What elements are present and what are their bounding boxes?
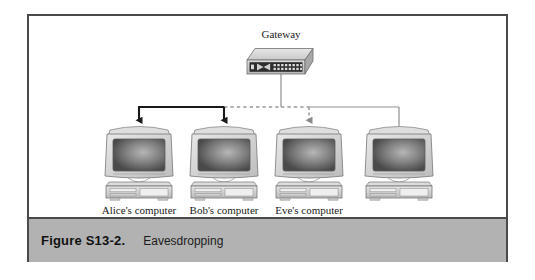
gateway-label: Gateway: [225, 28, 337, 40]
figure-caption-title: Eavesdropping: [143, 234, 223, 248]
router-switch-icon: [245, 47, 317, 77]
desktop-computer-icon: [186, 120, 262, 202]
computer-label-eve: Eve's computer: [249, 204, 369, 216]
computer-bob[interactable]: [186, 120, 262, 202]
computer-node4[interactable]: [361, 120, 437, 202]
desktop-computer-icon: [271, 120, 347, 202]
figure-s13-2: Gateway: [0, 0, 535, 280]
computer-alice[interactable]: [101, 120, 177, 202]
desktop-computer-icon: [361, 120, 437, 202]
figure-frame: Gateway: [27, 14, 508, 262]
gateway-device[interactable]: [245, 47, 317, 77]
computer-eve[interactable]: [271, 120, 347, 202]
figure-caption-bar: Figure S13-2. Eavesdropping: [29, 217, 506, 262]
figure-caption-number: Figure S13-2.: [41, 233, 125, 248]
desktop-computer-icon: [101, 120, 177, 202]
diagram-canvas: Gateway: [29, 16, 506, 217]
